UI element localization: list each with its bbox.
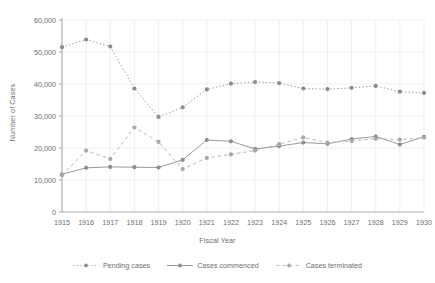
legend-label-cases-terminated: Cases terminated [306, 261, 362, 270]
svg-text:1921: 1921 [199, 218, 215, 227]
svg-text:1924: 1924 [271, 218, 287, 227]
svg-text:40,000: 40,000 [34, 80, 56, 89]
x-axis-tick-labels: 1915191619171918191919201921192219231924… [54, 218, 432, 227]
legend-label-pending-cases: Pending cases [103, 261, 150, 270]
svg-text:0: 0 [52, 208, 56, 217]
grid-lines [62, 20, 424, 212]
data-series-group [60, 37, 426, 177]
svg-text:10,000: 10,000 [34, 176, 56, 185]
svg-text:1918: 1918 [126, 218, 142, 227]
svg-text:1927: 1927 [344, 218, 360, 227]
svg-text:20,000: 20,000 [34, 144, 56, 153]
legend-item-pending-cases[interactable]: Pending cases [73, 261, 150, 270]
svg-text:1922: 1922 [223, 218, 239, 227]
x-axis-title: Fiscal Year [0, 236, 435, 245]
svg-text:1917: 1917 [102, 218, 118, 227]
svg-text:1928: 1928 [368, 218, 384, 227]
svg-text:1925: 1925 [295, 218, 311, 227]
y-axis-tick-labels: 010,00020,00030,00040,00050,00060,000 [34, 16, 56, 217]
svg-text:1919: 1919 [151, 218, 167, 227]
chart-container: 010,00020,00030,00040,00050,00060,000 19… [0, 0, 435, 283]
legend-item-cases-commenced[interactable]: Cases commenced [167, 261, 259, 270]
svg-text:30,000: 30,000 [34, 112, 56, 121]
axis-lines [59, 18, 424, 212]
legend-swatch-solid-icon [167, 261, 193, 270]
svg-text:1929: 1929 [392, 218, 408, 227]
legend-swatch-dashed-icon [276, 261, 302, 270]
legend-swatch-dotted-icon [73, 261, 99, 270]
svg-text:1923: 1923 [247, 218, 263, 227]
legend-item-cases-terminated[interactable]: Cases terminated [276, 261, 362, 270]
svg-text:1916: 1916 [78, 218, 94, 227]
svg-text:1930: 1930 [416, 218, 432, 227]
chart-legend: Pending cases Cases commenced Cases term… [0, 261, 435, 270]
svg-text:1915: 1915 [54, 218, 70, 227]
svg-text:60,000: 60,000 [34, 16, 56, 25]
svg-text:1920: 1920 [175, 218, 191, 227]
legend-label-cases-commenced: Cases commenced [197, 261, 259, 270]
svg-text:1926: 1926 [319, 218, 335, 227]
y-axis-title: Number of Cases [8, 68, 17, 158]
svg-text:50,000: 50,000 [34, 48, 56, 57]
